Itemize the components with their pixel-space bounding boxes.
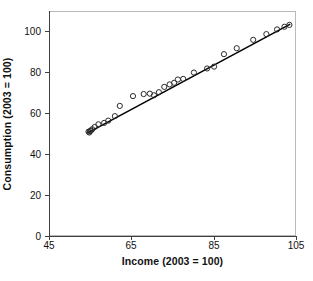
data-point bbox=[221, 52, 226, 57]
y-tick-100 bbox=[45, 31, 49, 32]
y-tick-0 bbox=[45, 236, 49, 237]
data-point bbox=[141, 91, 146, 96]
plot-canvas bbox=[49, 11, 296, 236]
data-point bbox=[96, 122, 101, 127]
x-tick-label-85: 85 bbox=[208, 240, 219, 251]
x-axis-line bbox=[49, 236, 296, 237]
x-axis-title: Income (2003 = 100) bbox=[49, 255, 296, 267]
data-point bbox=[175, 77, 180, 82]
y-tick-80 bbox=[45, 72, 49, 73]
data-point bbox=[117, 103, 122, 108]
y-axis-line bbox=[49, 11, 50, 236]
data-point bbox=[251, 37, 256, 42]
y-tick-20 bbox=[45, 195, 49, 196]
caption-fragment bbox=[0, 273, 313, 281]
y-tick-40 bbox=[45, 154, 49, 155]
y-tick-60 bbox=[45, 113, 49, 114]
data-point bbox=[162, 84, 167, 89]
y-axis-title-text: Consumption (2003 = 100) bbox=[1, 57, 13, 190]
x-tick-label-105: 105 bbox=[288, 240, 305, 251]
x-tick-label-65: 65 bbox=[125, 240, 136, 251]
data-point bbox=[234, 46, 239, 51]
data-point bbox=[191, 70, 196, 75]
data-point bbox=[264, 32, 269, 37]
x-tick-label-45: 45 bbox=[43, 240, 54, 251]
data-point bbox=[130, 93, 135, 98]
y-axis-title: Consumption (2003 = 100) bbox=[0, 11, 14, 236]
chart-figure: 456585105 020406080100 Income (2003 = 10… bbox=[0, 0, 313, 281]
